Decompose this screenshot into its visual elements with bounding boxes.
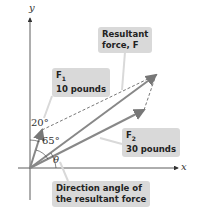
angle-arc-65: [36, 150, 48, 159]
resultant-label-line1: Resultant: [102, 29, 148, 40]
f1-magnitude: 10 pounds: [56, 84, 106, 95]
callout-pointer-f1: [44, 96, 52, 118]
f2-magnitude: 30 pounds: [126, 144, 176, 155]
f2-name: F2: [126, 130, 176, 144]
f1-name: F1: [56, 70, 106, 84]
callout-pointer-f2: [100, 138, 122, 144]
angle-label-20: 20°: [31, 117, 49, 128]
direction-line1: Direction angle of: [56, 183, 146, 194]
resultant-label-line2: force, F: [102, 40, 148, 51]
y-axis-label: y: [29, 2, 35, 13]
direction-angle-callout: Direction angle of the resultant force: [52, 181, 150, 207]
angle-label-theta: θ: [53, 154, 59, 165]
x-axis-label: x: [181, 161, 187, 172]
f2-callout: F2 30 pounds: [122, 128, 180, 157]
direction-line2: the resultant force: [56, 194, 146, 205]
callout-pointer-direction: [60, 162, 68, 181]
callout-pointer-resultant: [122, 52, 125, 90]
f1-callout: F1 10 pounds: [52, 68, 110, 97]
resultant-callout: Resultant force, F: [98, 27, 152, 53]
angle-label-65: 65°: [42, 135, 60, 146]
